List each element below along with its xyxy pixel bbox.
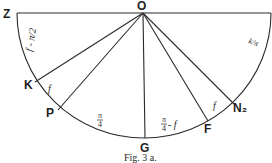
angle-label-KP: f <box>48 83 52 94</box>
radius-OF <box>143 13 208 121</box>
point-label-K: K <box>24 78 33 92</box>
angle-label-PG-den: 4 <box>98 120 102 129</box>
diagram-canvas: O Z K P G F N₂ f - π/2 k/π f π 4 π 4 - f… <box>0 0 272 163</box>
angle-label-ZK: f - π/2 <box>23 27 38 52</box>
angle-label-PG: π 4 <box>97 111 103 129</box>
radius-OG <box>143 13 145 138</box>
angle-label-GF-suffix: - f <box>168 119 178 130</box>
radius-OK <box>35 13 143 82</box>
point-label-P: P <box>46 106 54 120</box>
point-label-F: F <box>204 122 211 136</box>
figure-caption: Fig. 3 a. <box>124 152 157 163</box>
radius-ON2 <box>143 13 234 104</box>
angle-label-GF-den: 4 <box>162 124 166 133</box>
angle-label-PG-num: π <box>98 111 102 120</box>
angle-label-GF: π 4 - f <box>161 115 178 133</box>
angle-label-right: k/π <box>247 36 260 48</box>
angle-label-GF-num: π <box>162 115 166 124</box>
radius-OP <box>58 13 143 110</box>
point-label-N2: N₂ <box>233 101 247 115</box>
semicircle-diagram: O Z K P G F N₂ f - π/2 k/π f π 4 π 4 - f… <box>0 0 272 163</box>
point-label-O: O <box>137 0 146 13</box>
angle-label-FN2: f <box>213 100 217 111</box>
point-label-Z: Z <box>3 7 10 21</box>
